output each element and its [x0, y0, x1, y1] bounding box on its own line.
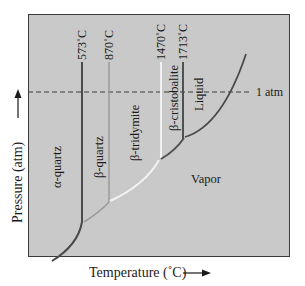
- x-axis-arrow-icon: [202, 270, 211, 277]
- x-axis-label: Temperature (˚C): [89, 265, 187, 281]
- y-axis-arrow-icon: [15, 89, 22, 98]
- temp-label-573: 573˚C: [75, 30, 89, 60]
- phase-label-beta-tridymite: β-tridymite: [128, 104, 142, 161]
- phase-label-liquid: Liquid: [192, 77, 206, 111]
- temp-label-870: 870˚C: [102, 30, 116, 60]
- y-axis-label: Pressure (atm): [10, 141, 26, 223]
- phase-label-beta-quartz: β-quartz: [92, 136, 106, 178]
- temp-label-1713: 1713˚C: [176, 24, 190, 60]
- phase-label-alpha-quartz: α-quartz: [50, 146, 64, 188]
- one-atm-label: 1 atm: [256, 85, 284, 99]
- phase-diagram: 1 atm 573˚C 870˚C 1470˚C 1713˚C α-quartz…: [0, 0, 305, 286]
- temp-label-1470: 1470˚C: [154, 24, 168, 60]
- phase-label-vapor: Vapor: [191, 172, 222, 186]
- phase-label-beta-cristobalite: β-cristobalite: [167, 64, 181, 131]
